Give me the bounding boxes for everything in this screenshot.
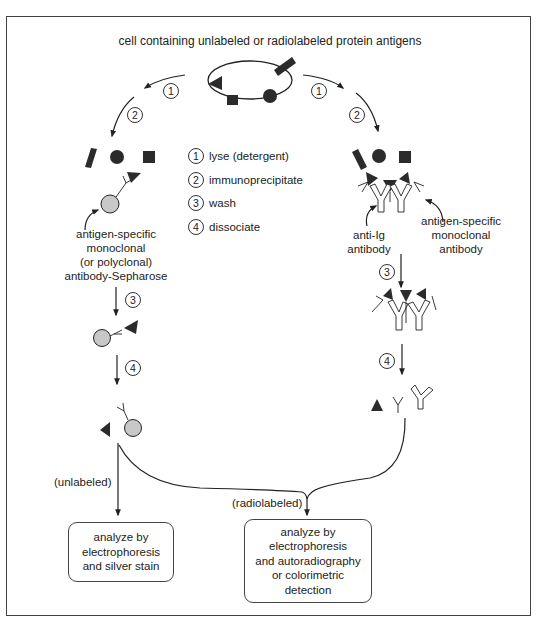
dissociated-left-icon <box>100 403 142 437</box>
curve-right-to-radiolabeled <box>307 418 405 499</box>
antibody-sepharose-label: antigen-specific monoclonal (or polyclon… <box>52 227 180 283</box>
legend-item: 4dissociate <box>188 218 260 235</box>
legend-item: 2immunoprecipitate <box>188 171 303 188</box>
immune-complex-icon <box>358 172 424 212</box>
step-3-left-badge: 3 <box>125 292 141 308</box>
step-2-left-badge: 2 <box>127 107 143 123</box>
step-1-right-badge: 1 <box>311 83 327 99</box>
monoclonal-antibody-label: antigen-specific monoclonal antibody <box>406 214 516 256</box>
washed-complex-icon <box>372 288 436 330</box>
silver-stain-result-box: analyze by electrophoresis and silver st… <box>68 522 174 582</box>
washed-bead-icon <box>94 320 139 347</box>
radiolabeled-path-label: (radiolabeled) <box>232 496 302 510</box>
dissociated-right-icon <box>371 385 433 413</box>
antigen-mixture-left-icon <box>85 148 155 168</box>
step-4-right-badge: 4 <box>379 353 395 369</box>
step-3-right-badge: 3 <box>379 264 395 280</box>
anti-ig-antibody-label: anti-Ig antibody <box>334 228 404 256</box>
step-4-left-badge: 4 <box>125 360 141 376</box>
curve-left-to-radiolabeled <box>119 445 307 499</box>
antigen-mixture-right-icon <box>352 149 411 170</box>
autoradiography-result-box: analyze by electrophoresis and autoradio… <box>244 519 372 603</box>
legend-item: 3wash <box>188 194 236 211</box>
pointer-arrow-anti-ig <box>366 206 376 226</box>
unlabeled-path-label: (unlabeled) <box>54 475 112 489</box>
diagram-title: cell containing unlabeled or radiolabele… <box>60 34 480 48</box>
legend-item: 1lyse (detergent) <box>188 147 289 164</box>
step-2-right-badge: 2 <box>349 107 365 123</box>
step-1-left-badge: 1 <box>163 83 179 99</box>
antibody-sepharose-bead-icon <box>101 172 141 213</box>
cell-icon <box>208 57 296 105</box>
